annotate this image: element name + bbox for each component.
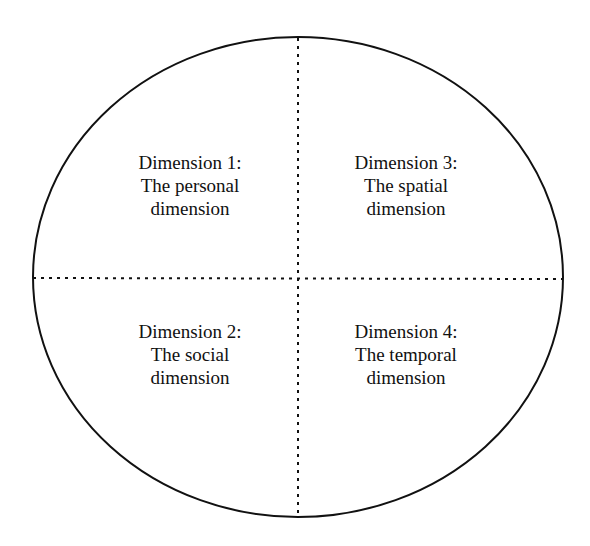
quadrant-bottom-right-label: Dimension 4: The temporal dimension (326, 320, 486, 389)
diagram-canvas (0, 0, 590, 546)
quadrant-top-right-label: Dimension 3: The spatial dimension (326, 151, 486, 220)
quadrant-title: Dimension 4: (326, 320, 486, 343)
quadrant-subtitle-2: dimension (110, 197, 270, 220)
quadrant-subtitle-2: dimension (110, 366, 270, 389)
quadrant-title: Dimension 2: (110, 320, 270, 343)
quadrant-subtitle: The social (110, 343, 270, 366)
quadrant-subtitle-2: dimension (326, 197, 486, 220)
quadrant-subtitle: The personal (110, 174, 270, 197)
quadrant-subtitle: The spatial (326, 174, 486, 197)
quadrant-bottom-left-label: Dimension 2: The social dimension (110, 320, 270, 389)
quadrant-subtitle: The temporal (326, 343, 486, 366)
quadrant-subtitle-2: dimension (326, 366, 486, 389)
outer-ellipse (33, 37, 563, 517)
quadrant-title: Dimension 3: (326, 151, 486, 174)
horizontal-divider (33, 278, 563, 279)
quadrant-title: Dimension 1: (110, 151, 270, 174)
quadrant-top-left-label: Dimension 1: The personal dimension (110, 151, 270, 220)
